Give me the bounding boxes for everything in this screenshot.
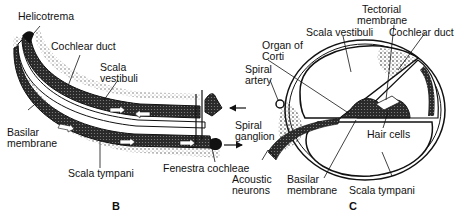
- label-c-organ-of-corti-line2: Corti: [262, 51, 284, 62]
- panel-caption-b: B: [112, 200, 120, 212]
- cochlea-diagram: Helicotrema Cochlear duct Scala vestibul…: [0, 0, 457, 218]
- label-b-scala-vestibuli-line2: vestibuli: [100, 73, 138, 84]
- panel-caption-c: C: [349, 200, 357, 212]
- label-c-spiral-artery-line2: artery: [245, 75, 272, 86]
- label-b-cochlear-duct: Cochlear duct: [51, 41, 116, 52]
- label-b-spiral-ganglion-line2: ganglion: [235, 131, 275, 142]
- label-c-scala-tympani: Scala tympani: [349, 185, 415, 196]
- label-c-scala-vestibuli: Scala vestibuli: [306, 27, 373, 38]
- label-b-scala-tympani: Scala tympani: [68, 168, 134, 179]
- label-c-tectorial-membrane-line2: membrane: [357, 15, 407, 26]
- label-b-helicotrema: Helicotrema: [18, 11, 74, 22]
- label-c-hair-cells: Hair cells: [367, 129, 410, 140]
- label-c-acoustic-neurons-line2: neurons: [232, 185, 270, 196]
- label-b-basilar-membrane-line2: membrane: [7, 138, 57, 149]
- label-c-cochlear-duct: Cochlear duct: [389, 27, 454, 38]
- label-c-basilar-membrane-line2: membrane: [287, 185, 337, 196]
